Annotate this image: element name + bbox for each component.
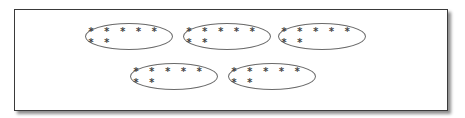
asterisk-group-3: * * * * * * * [279,26,365,48]
group-oval-1: * * * * * * * [85,23,173,50]
group-oval-4: * * * * * * * [130,63,218,90]
diagram-frame: * * * * * * * * * * * * * * * * * * * * … [14,9,448,111]
asterisk-group-1: * * * * * * * [86,26,172,48]
group-oval-3: * * * * * * * [278,23,366,50]
group-oval-2: * * * * * * * [183,23,271,50]
asterisk-group-2: * * * * * * * [184,26,270,48]
asterisk-group-4: * * * * * * * [131,66,217,88]
asterisk-group-5: * * * * * * * [229,66,315,88]
group-oval-5: * * * * * * * [228,63,316,90]
